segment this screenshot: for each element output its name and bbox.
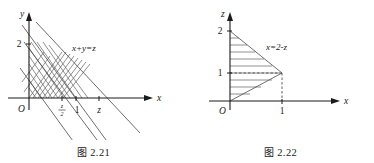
axis-x (209, 98, 340, 104)
figure-2-22-canvas: z x O 2 1 1 x=2-z (187, 0, 374, 140)
curve-label-x-plus-y-equals-z: x+y=z (71, 43, 96, 53)
z-tick-label-2: 2 (218, 26, 223, 36)
z-tick-label-1: 1 (218, 68, 223, 78)
curve-label-x-equals-2-minus-z: x=2-z (265, 42, 288, 52)
x-tick-label-z-over-2: z 2 (59, 103, 66, 117)
figure-2-21-canvas: y x O 2 z 2 1 z x+y=z (0, 0, 187, 140)
figure-pair: y x O 2 z 2 1 z x+y=z 图 2.21 (0, 0, 374, 163)
y-tick-label-2: 2 (17, 39, 22, 49)
x-tick-label-1: 1 (280, 106, 285, 116)
hatch-region-positive-slope (22, 52, 90, 98)
axis-label-z: z (220, 9, 225, 19)
axis-label-x: x (156, 93, 162, 103)
figure-2-22: z x O 2 1 1 x=2-z 图 2.22 (187, 0, 374, 163)
x-tick-label-1: 1 (75, 105, 80, 115)
axis-z (227, 12, 233, 110)
figure-2-22-caption: 图 2.22 (187, 144, 374, 159)
axis-label-x: x (343, 96, 349, 106)
origin-label: O (18, 104, 25, 114)
x-tick-label-z: z (96, 105, 101, 115)
caption-number: 2.22 (277, 147, 297, 158)
fraction-denominator: 2 (61, 111, 64, 117)
caption-number: 2.21 (90, 147, 110, 158)
origin-label: O (219, 106, 226, 116)
line-x-plus-y-equals-z-outer (36, 22, 140, 133)
axis-label-y: y (19, 9, 25, 19)
caption-cjk-char: 图 (264, 147, 274, 158)
fraction-numerator: z (60, 103, 64, 109)
figure-2-21-caption: 图 2.21 (0, 144, 187, 159)
caption-cjk-char: 图 (77, 147, 87, 158)
figure-2-21: y x O 2 z 2 1 z x+y=z 图 2.21 (0, 0, 187, 163)
